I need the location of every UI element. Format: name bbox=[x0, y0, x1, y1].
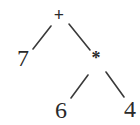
node-times: * bbox=[92, 49, 101, 67]
node-4: 4 bbox=[124, 97, 136, 121]
edge-plus-to-7 bbox=[33, 26, 51, 49]
expression-tree: + 7 * 6 4 bbox=[0, 0, 140, 125]
node-plus: + bbox=[54, 6, 64, 24]
edge-times-to-4 bbox=[106, 72, 124, 97]
node-7: 7 bbox=[17, 46, 29, 70]
edge-plus-to-times bbox=[69, 24, 90, 50]
node-6: 6 bbox=[55, 98, 67, 122]
edge-times-to-6 bbox=[71, 75, 88, 98]
